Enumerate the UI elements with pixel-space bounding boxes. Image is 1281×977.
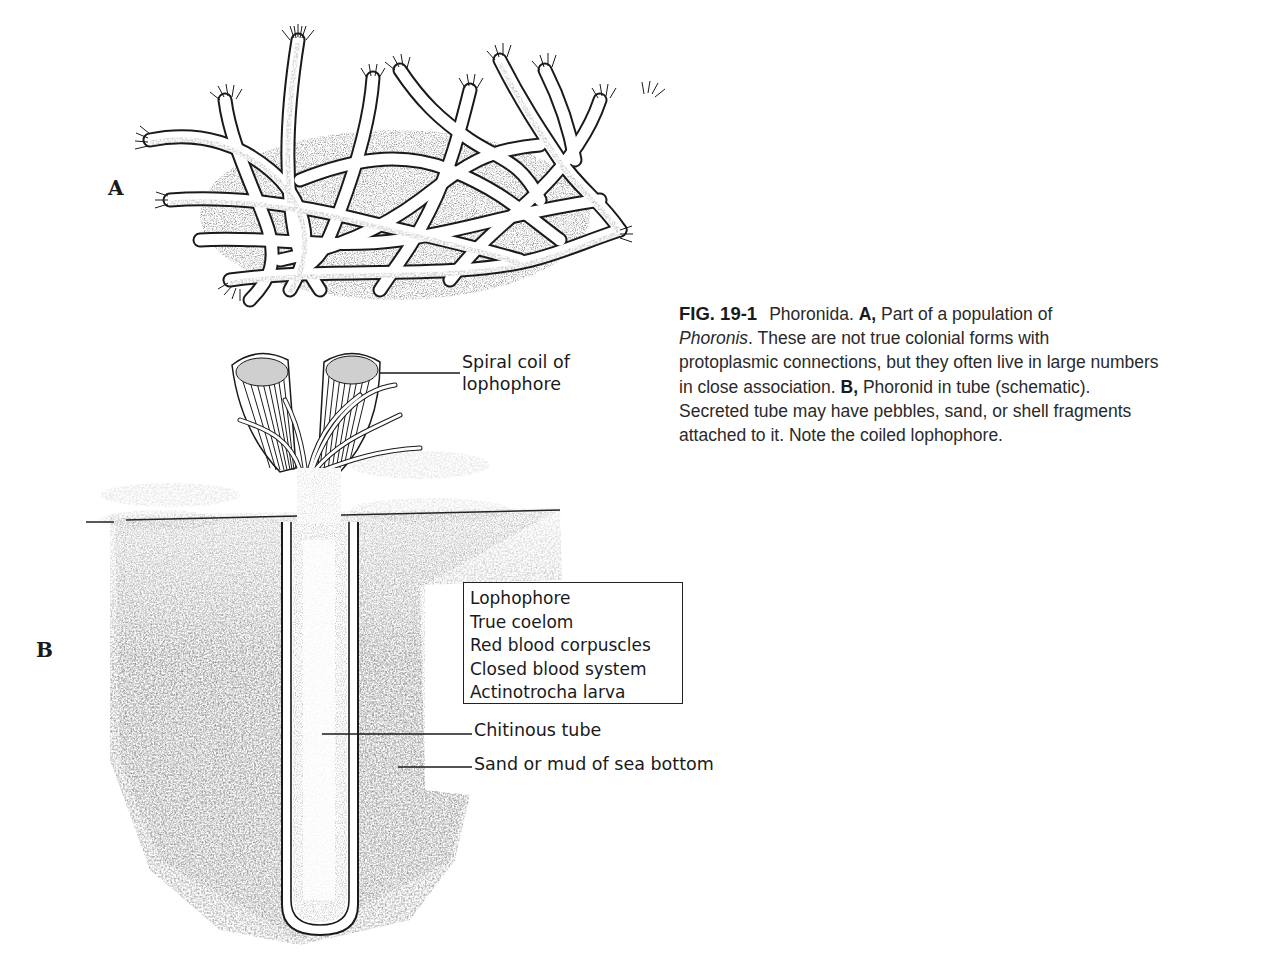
trait-item: Closed blood system (470, 658, 682, 682)
panel-a-drawing (135, 24, 665, 301)
caption-text: in close association. (679, 377, 836, 397)
figure-illustration (0, 0, 1281, 977)
caption-text: . These are not true colonial forms with (748, 328, 1049, 348)
trait-item: Red blood corpuscles (470, 634, 682, 658)
caption-line-4: in close association. B, Phoronid in tub… (679, 375, 1281, 399)
trait-item: Lophophore (470, 587, 682, 611)
panel-label-b: B (36, 638, 53, 662)
caption-genus: Phoronis (679, 328, 748, 348)
caption-bold-a: A, (859, 304, 877, 324)
callout-chitinous-tube: Chitinous tube (474, 719, 601, 741)
traits-box: Lophophore True coelom Red blood corpusc… (463, 582, 683, 704)
caption-line-2: Phoronis. These are not true colonial fo… (679, 326, 1281, 350)
trait-item: Actinotrocha larva (470, 681, 682, 705)
caption-text: Part of a population of (881, 304, 1052, 324)
caption-text: Phoronid in tube (schematic). (863, 377, 1091, 397)
trait-item: True coelom (470, 611, 682, 635)
caption-line-1: FIG. 19-1Phoronida. A, Part of a populat… (679, 302, 1281, 326)
panel-label-a: A (108, 176, 124, 200)
callout-spiral-line1: Spiral coil of (462, 351, 570, 373)
caption-line-6: attached to it. Note the coiled lophopho… (679, 423, 1281, 447)
figure-caption: FIG. 19-1Phoronida. A, Part of a populat… (679, 302, 1281, 447)
figure-number: FIG. 19-1 (679, 303, 757, 324)
caption-title: Phoronida. (769, 304, 854, 324)
callout-spiral-coil: Spiral coil of lophophore (462, 351, 570, 395)
callout-sand-mud: Sand or mud of sea bottom (474, 753, 714, 775)
caption-bold-b: B, (841, 377, 859, 397)
caption-line-3: protoplasmic connections, but they often… (679, 350, 1281, 374)
callout-spiral-line2: lophophore (462, 373, 570, 395)
caption-line-5: Secreted tube may have pebbles, sand, or… (679, 399, 1281, 423)
